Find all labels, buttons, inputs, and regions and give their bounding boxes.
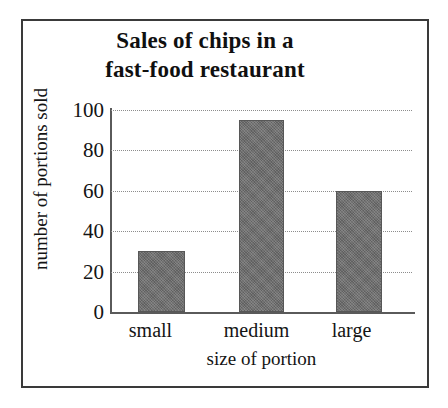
y-tick-label: 0 <box>56 302 104 323</box>
y-tick-label: 80 <box>56 140 104 161</box>
x-axis-title: size of portion <box>111 348 412 370</box>
y-tick-label: 100 <box>56 100 104 121</box>
x-tick-label-large: large <box>314 318 389 342</box>
x-tick-label-medium: medium <box>213 318 300 342</box>
y-tick-label-group: 100 80 60 40 20 0 <box>52 0 104 408</box>
x-axis-line <box>110 312 415 314</box>
gridline-100 <box>111 110 412 111</box>
x-tick-label-small: small <box>113 318 188 342</box>
chart-screenshot: Sales of chips in a fast-food restaurant… <box>0 0 448 408</box>
bar-small[interactable] <box>138 251 185 312</box>
bar-large[interactable] <box>336 191 382 312</box>
y-tick-label: 60 <box>56 181 104 202</box>
bar-medium[interactable] <box>239 120 284 312</box>
y-tick-label: 20 <box>56 262 104 283</box>
plot-area <box>111 110 412 312</box>
y-tick-label: 40 <box>56 221 104 242</box>
y-axis-title: number of portions sold <box>30 74 52 284</box>
